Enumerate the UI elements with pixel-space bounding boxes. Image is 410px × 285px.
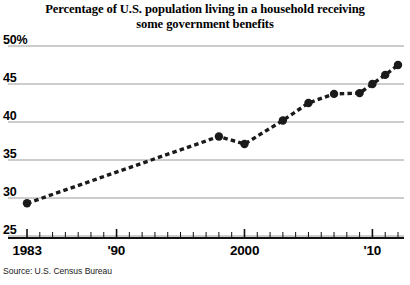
x-axis-tick-label: 2000 [230, 243, 259, 258]
data-line [27, 65, 398, 203]
chart-title-line-1: Percentage of U.S. population living in … [45, 2, 365, 16]
y-axis-tick-label: 30 [3, 185, 17, 199]
plot-area: 1983: 29.3%1998: 38.1%2000: 37.1%2003: 4… [0, 38, 410, 243]
gridlines [8, 46, 404, 236]
chart-title: Percentage of U.S. population living in … [8, 2, 402, 32]
data-point-marker: 2010: 45% [368, 80, 376, 88]
data-point-marker: 2003: 40.2% [279, 116, 287, 124]
data-point-marker: 2000: 37.1% [240, 140, 248, 148]
data-point-marker: 2007: 43.7% [330, 90, 338, 98]
x-axis [8, 229, 404, 238]
data-point-marker: 2009: 43.8% [355, 89, 363, 97]
series-line [27, 65, 398, 203]
data-point-marker: 2005: 42.5% [304, 99, 312, 107]
chart-container: Percentage of U.S. population living in … [0, 0, 410, 285]
y-axis-tick-label: 35 [3, 147, 17, 161]
chart-plot-svg: 1983: 29.3%1998: 38.1%2000: 37.1%2003: 4… [0, 38, 410, 243]
y-axis-tick-label: 50% [3, 33, 27, 47]
x-axis-tick-label: '10 [363, 243, 381, 258]
chart-title-line-2: some government benefits [136, 17, 274, 31]
x-axis-tick-label: 1983 [13, 243, 42, 258]
x-axis-tick-label: '90 [108, 243, 126, 258]
data-point-marker: 2011: 46.2% [381, 71, 389, 79]
data-point-marker: 1983: 29.3% [23, 199, 31, 207]
y-axis-tick-label: 25 [3, 223, 17, 237]
y-axis-tick-label: 45 [3, 71, 17, 85]
data-point-marker: 1998: 38.1% [215, 132, 223, 140]
y-axis-tick-label: 40 [3, 109, 17, 123]
data-point-marker: 2012: 47.5% [394, 61, 402, 69]
source-note: Source: U.S. Census Bureau [3, 266, 112, 276]
